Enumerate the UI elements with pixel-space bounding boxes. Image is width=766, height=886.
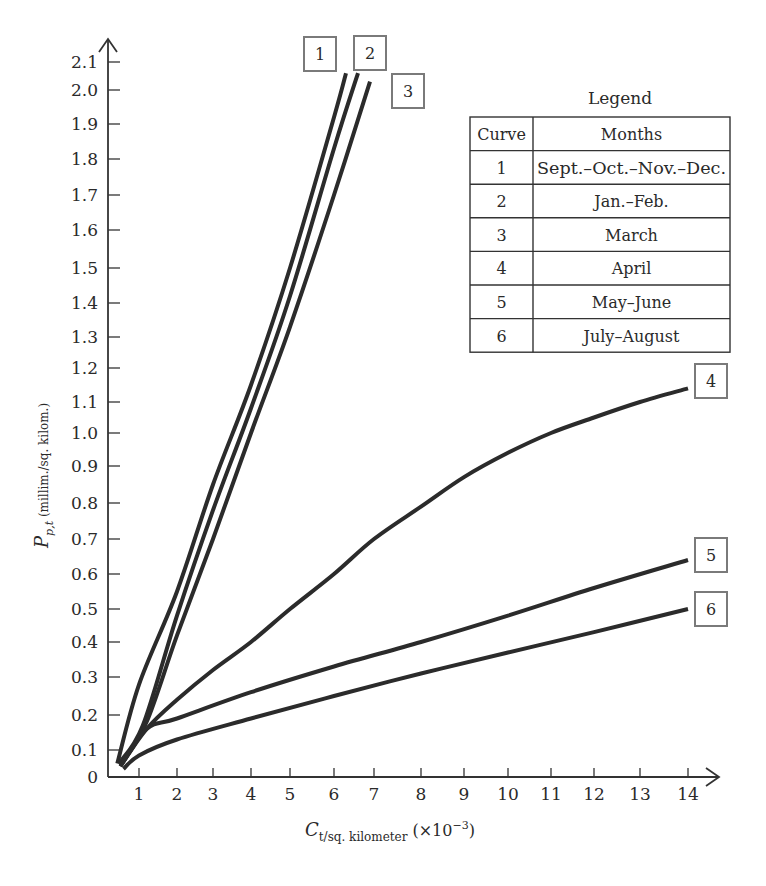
y-tick-label: 1.6 [71,220,98,240]
legend-row-months: May–June [592,293,671,312]
legend-header-curve: Curve [477,125,526,144]
y-tick-label: 2.1 [71,52,98,72]
y-tick-label: 1.0 [71,423,98,443]
curve-label-text: 6 [706,600,716,619]
y-tick-label: 0.3 [71,667,98,687]
x-tick-label: 14 [677,784,699,804]
legend-row-curve: 3 [496,226,506,245]
y-axis-title-units: (millim./sq. kilom.) [37,403,51,521]
legend-row-curve: 5 [496,293,506,312]
x-axis-title-sub: t/sq. kilometer [319,830,408,844]
x-tick-label: 9 [459,784,470,804]
x-axis-title: Ct/sq. kilometer(×10−3) [305,819,475,844]
legend-row-curve: 6 [496,327,506,346]
legend-row-months: July–August [582,327,680,346]
curve-label-text: 1 [315,45,325,64]
curve-5 [120,560,688,766]
curve-label-text: 5 [706,546,716,565]
curve-label-box-6: 6 [695,592,727,626]
x-tick-label: 4 [246,784,257,804]
y-tick-label: 0.7 [71,529,98,549]
y-tick-label: 0.5 [71,599,98,619]
curve-label-box-2: 2 [354,36,386,70]
x-tick-label: 11 [540,784,562,804]
y-tick-label: 1.1 [71,392,98,412]
curve-label-text: 4 [706,372,716,391]
x-tick-label: 6 [329,784,340,804]
y-tick-label: 0.4 [71,632,98,652]
axes: 00.10.20.30.40.50.60.70.80.91.01.11.21.3… [71,39,719,804]
y-tick-label: 1.7 [71,185,98,205]
x-tick-label: 10 [497,784,519,804]
curve-1 [117,73,346,763]
y-tick-label: 1.5 [71,258,98,278]
legend-row-curve: 2 [496,192,506,211]
chart-canvas: 00.10.20.30.40.50.60.70.80.91.01.11.21.3… [0,0,766,886]
x-tick-label: 13 [629,784,651,804]
x-tick-label: 1 [134,784,145,804]
y-axis-title: Pp,t (millim./sq. kilom.) [31,403,56,549]
curve-label-text: 2 [365,44,375,63]
y-axis-title-main: P [31,535,52,549]
legend-row-months: Jan.–Feb. [592,192,668,211]
curve-label-box-4: 4 [695,364,727,398]
y-tick-label: 0.8 [71,493,98,513]
legend-row-months: March [605,226,658,245]
y-tick-label: 0.6 [71,564,98,584]
curve-label-box-1: 1 [304,37,336,71]
x-tick-label: 8 [416,784,427,804]
x-axis-title-exponent: −3 [452,819,468,832]
y-tick-label: 0.2 [71,705,98,725]
y-tick-label: 0.1 [71,740,98,760]
y-tick-label: 1.2 [71,358,98,378]
x-tick-label: 12 [583,784,605,804]
x-axis-title-scale: (×10 [412,821,452,840]
y-tick-label: 1.9 [71,114,98,134]
legend-row-curve: 4 [496,259,506,278]
x-tick-label: 2 [172,784,183,804]
x-tick-label: 5 [285,784,296,804]
curve-6 [124,609,689,769]
y-tick-label: 0.9 [71,456,98,476]
x-axis-title-close: ) [469,821,475,840]
legend-table: LegendCurveMonths1Sept.–Oct.–Nov.–Dec.2J… [470,88,730,352]
y-tick-label: 1.3 [71,327,98,347]
x-tick-label: 7 [369,784,380,804]
legend-row-months: Sept.–Oct.–Nov.–Dec. [537,159,726,178]
curve-label-text: 3 [403,82,413,101]
y-tick-label: 1.4 [71,293,98,313]
x-tick-label: 3 [208,784,219,804]
x-axis-title-main: C [305,819,319,840]
legend-header-months: Months [601,125,662,144]
legend-row-curve: 1 [496,159,506,178]
y-tick-label: 0 [87,767,98,787]
y-tick-label: 1.8 [71,149,98,169]
y-tick-label: 2.0 [71,80,98,100]
curve-label-box-5: 5 [695,538,727,572]
curve-label-box-3: 3 [392,74,424,108]
y-axis-title-sub: p,t [43,520,56,536]
legend-title: Legend [588,88,652,108]
legend-row-months: April [611,259,652,278]
legend-border [470,117,730,352]
